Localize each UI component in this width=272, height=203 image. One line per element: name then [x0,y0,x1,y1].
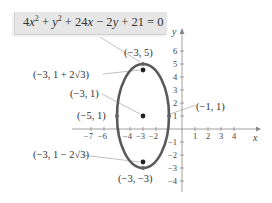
top-vertex-label: (−3, 5) [124,47,153,59]
y-tick-label: 2 [173,98,177,108]
bottom-vertex-label: (−3, −3) [118,173,153,185]
x-tick-label: −6 [98,131,107,141]
x-tick-label: −2 [149,131,158,141]
equation-box: 4x2 + y2 + 24x − 2y + 21 = 0 [14,12,167,35]
lower-focus-label: (−3, 1 − 2√3) [33,149,90,161]
top-vertex-dot [141,62,145,66]
y-arrow-icon [180,28,185,34]
y-tick-label: −1 [168,137,177,147]
x-arrow-icon [256,127,261,132]
upper-focus-label: (−3, 1 + 2√3) [33,69,90,81]
center-dot [141,114,146,119]
right-covertex-label: (−1, 1) [196,101,225,113]
left-covertex-label: (−5, 1) [77,110,106,122]
leader-upper-focus [103,70,140,74]
left-covertex-dot [115,114,119,118]
center-label: (−3, 1) [70,88,99,100]
y-tick-label: 4 [173,72,178,82]
x-tick-label: −3 [136,131,145,141]
y-tick-label: 5 [173,59,177,69]
y-tick-label: −4 [168,176,178,186]
y-tick-label: 3 [173,85,177,95]
x-tick-label: 3 [219,131,223,141]
equation-text: 4x2 + y2 + 24x − 2y + 21 = 0 [23,15,164,30]
y-tick-label: 1 [173,111,177,121]
upper-focus-dot [141,68,146,73]
x-axis-label: x [252,132,258,143]
y-tick-label: 6 [173,46,177,56]
x-tick-label: 2 [206,131,210,141]
y-tick-label: −3 [168,163,177,173]
x-tick-label: −4 [123,131,133,141]
right-covertex-dot [167,114,171,118]
y-axis-label: y [171,26,177,37]
points [115,62,171,170]
leader-center [102,94,140,114]
x-tick-label: 4 [232,131,237,141]
lower-focus-dot [141,160,146,165]
y-axis: 6 5 4 3 2 1 −1 −2 −3 −4 y [168,26,185,192]
bottom-vertex-dot [141,166,145,170]
x-tick-label: −7 [84,131,93,141]
y-tick-label: −2 [168,150,177,160]
x-tick-label: 1 [193,131,197,141]
